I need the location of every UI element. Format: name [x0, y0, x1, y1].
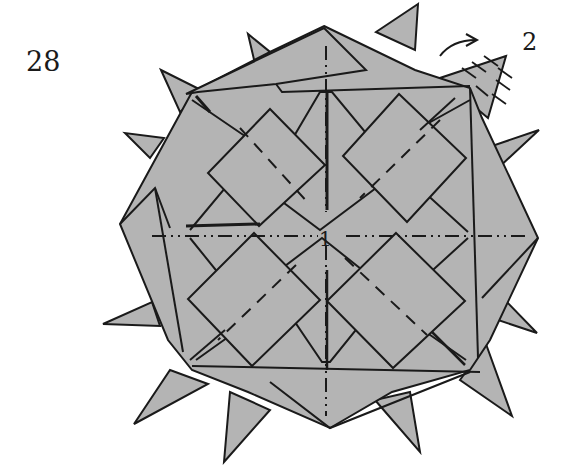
curved-arrow-icon — [440, 34, 477, 56]
origami-diagram: 1 2 — [0, 0, 572, 474]
corner-label: 2 — [522, 28, 537, 56]
center-label: 1 — [319, 227, 332, 251]
